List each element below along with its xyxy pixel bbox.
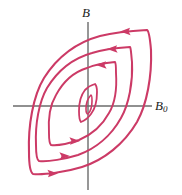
horizontal-axis-label: B0 xyxy=(155,99,167,114)
hysteresis-curves-group xyxy=(29,30,151,174)
loop-core-tail xyxy=(86,95,92,114)
hysteresis-figure: B B0 xyxy=(0,0,182,195)
horizontal-axis-label-text: B xyxy=(155,98,163,113)
arrow-bottom-third xyxy=(69,137,80,145)
loop-third xyxy=(49,62,116,145)
vertical-axis-label: B xyxy=(82,6,90,19)
horizontal-axis-label-subscript: 0 xyxy=(163,104,168,114)
direction-arrows-group xyxy=(47,28,130,177)
vertical-axis-label-text: B xyxy=(82,5,90,20)
arrow-top-third xyxy=(96,61,107,68)
loop-outermost xyxy=(29,30,151,174)
